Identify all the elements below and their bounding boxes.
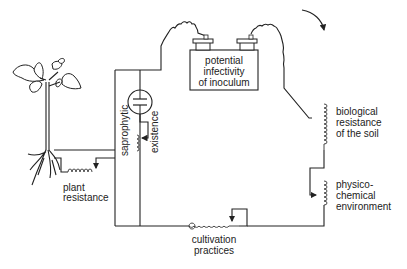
- soil-circuit-diagram: potential infectivity of inoculum saprop…: [0, 0, 407, 269]
- biological-label-3: of the soil: [336, 128, 379, 139]
- physico-label-2: chemical: [336, 190, 375, 201]
- biological-resistance-coil-icon: [324, 104, 327, 150]
- battery-icon: potential infectivity of inoculum: [190, 35, 258, 90]
- curved-arrow-icon: [302, 10, 324, 30]
- cultivation-label-1: cultivation: [192, 234, 236, 245]
- battery-label-line-1: potential: [205, 55, 243, 66]
- saprophytic-coil-icon: [137, 135, 139, 151]
- saprophytic-label: saprophytic: [119, 105, 130, 156]
- capacitor-icon: [128, 90, 152, 114]
- plant-resistance-label-2: resistance: [63, 192, 109, 203]
- physico-label-1: physico-: [336, 179, 373, 190]
- physico-chemical-coil-icon: [324, 181, 327, 205]
- existence-label: existence: [149, 110, 160, 153]
- physico-label-3: environment: [336, 201, 391, 212]
- biological-label-2: resistance: [336, 117, 382, 128]
- plant-resistance-coil-icon: [68, 169, 92, 172]
- battery-label-line-3: of inoculum: [198, 77, 249, 88]
- battery-label-line-2: infectivity: [203, 66, 244, 77]
- cultivation-label-2: practices: [194, 245, 234, 256]
- biological-label-1: biological: [336, 106, 378, 117]
- cultivation-coil-icon: [189, 223, 239, 229]
- plant-icon: [13, 58, 81, 185]
